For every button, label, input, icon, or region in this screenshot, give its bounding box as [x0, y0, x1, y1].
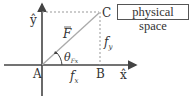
y-axis-label: ŷ — [29, 13, 37, 27]
fy-label: fy — [103, 35, 113, 51]
point-c-label: C — [102, 6, 111, 20]
angle-label: θFx — [64, 51, 79, 64]
fx-label: fx — [69, 69, 78, 85]
vector-diagram: ŷ x̂ C A B F fy fx θFx — [0, 0, 194, 99]
point-b-label: B — [96, 67, 105, 81]
point-a-label: A — [32, 67, 42, 81]
x-axis-label: x̂ — [120, 68, 127, 82]
vector-f-label: F — [62, 27, 72, 41]
